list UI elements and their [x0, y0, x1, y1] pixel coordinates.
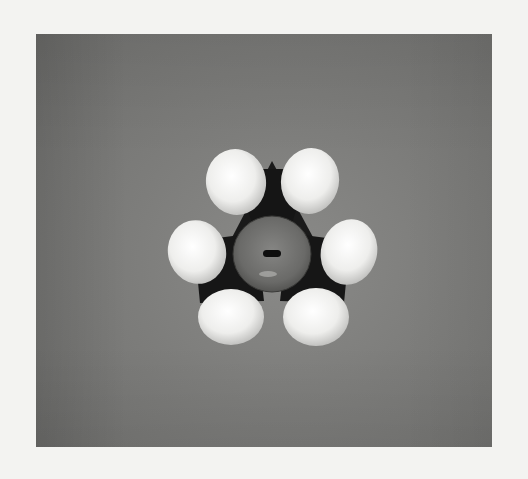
molecular-model: [164, 141, 380, 351]
page: [0, 0, 528, 479]
hydrogen-bottom-right: [283, 288, 349, 346]
photograph: [36, 34, 492, 447]
atom-slot: [263, 250, 281, 257]
hydrogen-bottom-left: [198, 289, 264, 345]
central-atom: [233, 216, 311, 292]
